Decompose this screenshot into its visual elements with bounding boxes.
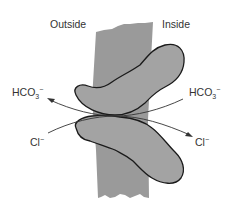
ion-base: Cl (30, 136, 40, 148)
ion-subscript: 3 (212, 93, 216, 100)
cl-label-inside: Cl− (195, 137, 209, 148)
hco3-label-inside: HCO3− (189, 87, 220, 98)
ion-subscript: 3 (35, 93, 39, 100)
outside-label: Outside (50, 19, 86, 30)
ion-charge: − (216, 86, 220, 93)
hco3-arrowhead-icon (47, 98, 55, 103)
cl-label-outside: Cl− (30, 137, 44, 148)
ion-charge: − (40, 136, 44, 143)
anion-exchanger-diagram (0, 0, 233, 209)
ion-charge: − (39, 86, 43, 93)
ion-base: HCO (12, 86, 35, 98)
ion-base: Cl (195, 136, 205, 148)
ion-base: HCO (189, 86, 212, 98)
inside-label: Inside (162, 19, 190, 30)
cl-arrowhead-icon (185, 132, 193, 137)
ion-charge: − (205, 136, 209, 143)
hco3-label-outside: HCO3− (12, 87, 43, 98)
